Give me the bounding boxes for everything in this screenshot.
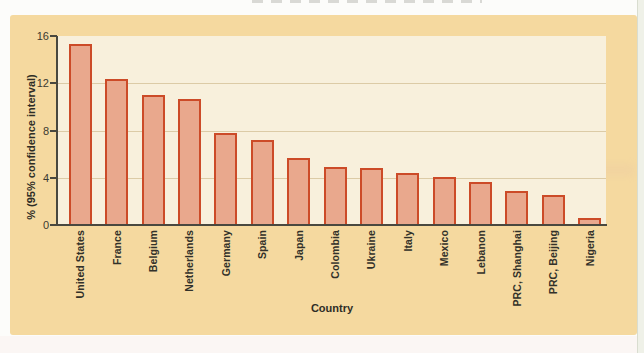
x-axis-label-belgium: Belgium [146, 230, 160, 325]
y-tick-mark-12 [50, 82, 57, 84]
x-axis-line [56, 224, 607, 226]
bar-italy [396, 173, 419, 225]
bar-germany [214, 133, 237, 225]
gridline-12 [57, 83, 606, 84]
bar-united-states [69, 44, 92, 225]
x-axis-label-nigeria: Nigeria [583, 230, 597, 325]
cropped-caption-fragment [252, 0, 482, 3]
page-margin-bottom [0, 336, 643, 353]
y-tick-mark-16 [50, 35, 57, 37]
x-axis-label-prc-shanghai: PRC, Shanghai [510, 230, 524, 325]
x-axis-label-spain: Spain [255, 230, 269, 325]
bar-france [105, 79, 128, 225]
x-axis-label-mexico: Mexico [437, 230, 451, 325]
y-tick-mark-0 [50, 224, 57, 226]
bar-lebanon [469, 182, 492, 225]
bar-prc-beijing [542, 195, 565, 225]
x-axis-label-france: France [110, 230, 124, 325]
scan-page-edge [637, 0, 644, 353]
y-axis-title: % (95% confidence interval) [24, 52, 39, 242]
bar-ukraine [360, 168, 383, 225]
bar-spain [251, 140, 274, 225]
gridline-8 [57, 131, 606, 132]
x-axis-label-italy: Italy [401, 230, 415, 325]
x-axis-label-united-states: United States [73, 230, 87, 325]
bar-japan [287, 158, 310, 225]
x-axis-label-netherlands: Netherlands [182, 230, 196, 325]
bar-colombia [324, 167, 347, 225]
bar-netherlands [178, 99, 201, 225]
bar-prc-shanghai [505, 191, 528, 225]
plot-area [57, 36, 606, 225]
x-axis-label-germany: Germany [219, 230, 233, 325]
bar-mexico [433, 177, 456, 225]
y-tick-mark-4 [50, 177, 57, 179]
y-tick-mark-8 [50, 130, 57, 132]
x-axis-label-lebanon: Lebanon [474, 230, 488, 325]
x-axis-label-prc-beijing: PRC, Beijing [546, 230, 560, 325]
x-axis-title: Country [286, 302, 378, 314]
y-tick-label-16: 16 [27, 30, 49, 43]
bar-belgium [142, 95, 165, 225]
